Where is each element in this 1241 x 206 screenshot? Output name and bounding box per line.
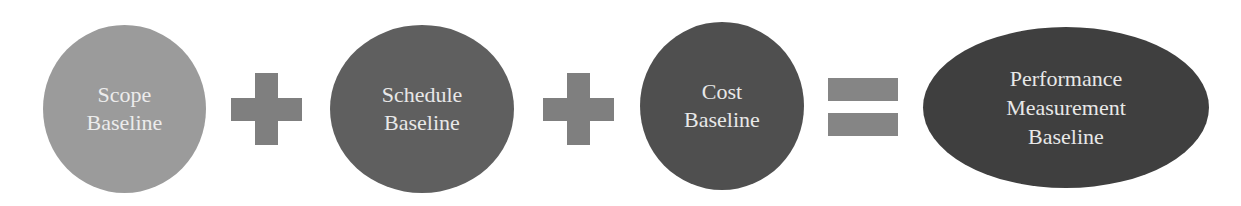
scope-baseline-line-2: Baseline	[87, 109, 163, 137]
pmb-line-2: Measurement	[1006, 93, 1126, 122]
cost-baseline-circle: Cost Baseline	[640, 22, 804, 190]
scope-baseline-circle: Scope Baseline	[43, 25, 206, 193]
schedule-baseline-line-2: Baseline	[384, 109, 460, 137]
pmb-line-1: Performance	[1010, 64, 1122, 93]
performance-measurement-baseline-ellipse: Performance Measurement Baseline	[923, 27, 1209, 188]
plus-horizontal-bar	[231, 98, 302, 121]
schedule-baseline-ellipse: Schedule Baseline	[330, 25, 514, 193]
equals-top-bar	[828, 78, 898, 101]
equals-bottom-bar	[828, 113, 898, 136]
pmb-line-3: Baseline	[1028, 122, 1104, 151]
equals-icon	[828, 78, 898, 136]
plus-icon	[231, 73, 302, 145]
cost-baseline-line-1: Cost	[702, 78, 742, 106]
schedule-baseline-line-1: Schedule	[382, 81, 463, 109]
cost-baseline-line-2: Baseline	[684, 106, 760, 134]
plus-horizontal-bar	[543, 98, 614, 121]
plus-icon	[543, 73, 614, 145]
scope-baseline-line-1: Scope	[98, 81, 152, 109]
